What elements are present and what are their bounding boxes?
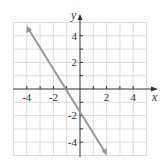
x-tick-label: -2 [49,91,58,103]
x-tick-label: -4 [22,91,32,103]
graph: -4 -2 2 4 4 2 -2 -4 x y [0,0,166,167]
y-tick-label: 2 [72,56,78,68]
y-tick-label: -2 [68,109,77,121]
y-axis-label: y [70,8,77,22]
y-tick-label: 4 [72,30,78,42]
y-tick-label: -4 [68,136,78,148]
x-axis-label: x [151,90,158,104]
x-tick-label: 4 [130,91,136,103]
x-tick-label: 2 [104,91,110,103]
